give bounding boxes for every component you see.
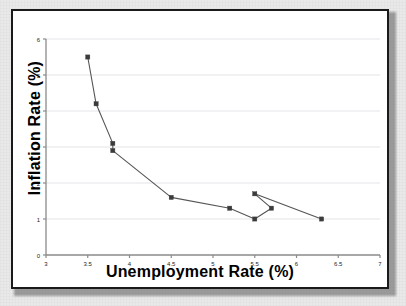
chart-container: 012345633.544.555.566.57 Unemployment Ra… xyxy=(11,9,389,289)
x-axis-title: Unemployment Rate (%) xyxy=(13,263,387,281)
data-marker-group xyxy=(86,55,324,221)
scatter-line-plot: 012345633.544.555.566.57 xyxy=(13,11,387,287)
data-line-group xyxy=(88,57,322,219)
tick-marks-group xyxy=(43,39,380,258)
y-axis-title: Inflation Rate (%) xyxy=(26,28,44,228)
tick-labels-group: 012345633.544.555.566.57 xyxy=(37,37,383,268)
gridlines-group xyxy=(46,39,380,219)
svg-text:0: 0 xyxy=(37,253,41,259)
